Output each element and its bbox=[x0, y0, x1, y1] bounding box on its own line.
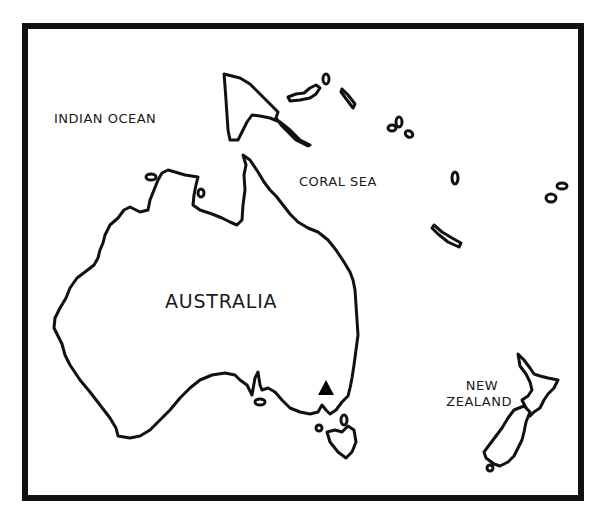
island-solomon-1 bbox=[388, 125, 396, 131]
island-solomon-3 bbox=[404, 129, 414, 138]
coral-sea-label: CORAL SEA bbox=[299, 174, 377, 189]
island-vanuatu bbox=[452, 172, 458, 184]
island-fiji-2 bbox=[557, 183, 567, 189]
island-kangaroo bbox=[255, 399, 265, 405]
new-zealand-label: NEW ZEALAND bbox=[446, 378, 512, 410]
island-solomon-2 bbox=[396, 117, 402, 127]
map-canvas bbox=[0, 0, 602, 518]
island-bass-strait bbox=[316, 425, 322, 431]
new-guinea bbox=[224, 74, 310, 146]
tasmania bbox=[327, 426, 356, 458]
new-zealand-south-island bbox=[484, 406, 530, 466]
island-melville bbox=[146, 174, 156, 180]
island-new-ireland bbox=[323, 74, 329, 84]
new-caledonia bbox=[432, 225, 461, 247]
new-zealand-label-line2: ZEALAND bbox=[446, 394, 512, 410]
indian-ocean-label: INDIAN OCEAN bbox=[54, 111, 156, 126]
australia-label: AUSTRALIA bbox=[165, 290, 277, 312]
island-groote bbox=[198, 189, 204, 197]
island-fiji-1 bbox=[546, 194, 556, 202]
new-britain bbox=[288, 85, 320, 101]
island-stewart bbox=[487, 465, 493, 471]
new-zealand-label-line1: NEW bbox=[446, 378, 512, 394]
island-flinders bbox=[341, 415, 347, 425]
bougainville bbox=[341, 89, 355, 108]
